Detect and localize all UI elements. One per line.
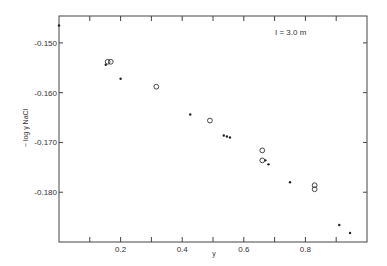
filled-dot-point [289, 181, 291, 183]
filled-dot-point [229, 136, 231, 138]
filled-dot-point [226, 135, 228, 137]
y-tick-labels: -0.150-0.160-0.170-0.180 [34, 39, 57, 197]
open-circle-point [260, 148, 265, 153]
axis-ticks [59, 16, 367, 242]
filled-dot-point [267, 163, 269, 165]
y-tick-label: -0.170 [34, 138, 57, 147]
plot-frame [59, 16, 367, 242]
y-axis-label: − log γ NaCl [22, 108, 30, 147]
scatter-chart: 0.20.40.60.8 -0.150-0.160-0.170-0.180 I … [0, 0, 387, 266]
open-circle-point [208, 118, 213, 123]
x-tick-label: 0.2 [115, 245, 127, 254]
data-points [58, 24, 351, 234]
y-tick-label: -0.180 [34, 188, 57, 197]
filled-dot-point [223, 134, 225, 136]
filled-dot-point [349, 232, 351, 234]
x-tick-label: 0.8 [300, 245, 312, 254]
x-tick-label: 0.6 [238, 245, 250, 254]
filled-dot-point [338, 224, 340, 226]
open-circle-point [154, 84, 159, 89]
filled-dot-point [58, 24, 60, 26]
filled-dot-point [189, 113, 191, 115]
x-tick-label: 0.4 [177, 245, 189, 254]
open-circle-point [260, 158, 265, 163]
x-axis-label: y [212, 250, 216, 258]
y-tick-label: -0.150 [34, 39, 57, 48]
open-circle-point [108, 59, 113, 64]
ionic-strength-annotation: I = 3.0 m [275, 28, 307, 37]
y-tick-label: -0.160 [34, 89, 57, 98]
filled-dot-point [119, 78, 121, 80]
